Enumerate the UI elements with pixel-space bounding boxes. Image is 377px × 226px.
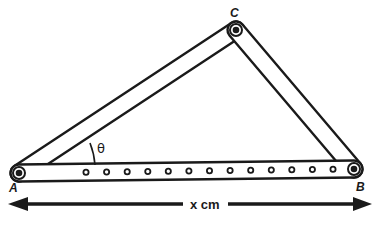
bar-hole xyxy=(310,167,315,172)
pivot-a xyxy=(13,167,25,179)
bar-hole xyxy=(228,168,233,173)
bar-hole xyxy=(186,168,191,173)
arm-cb-body xyxy=(224,18,366,181)
bar-hole xyxy=(166,169,171,174)
pivot-b xyxy=(348,163,360,175)
angle-label: θ xyxy=(97,141,105,156)
bar-hole xyxy=(125,169,130,174)
dimension-label: x cm xyxy=(190,197,220,212)
bar-hole xyxy=(269,167,274,172)
vertex-label-c: C xyxy=(230,6,239,20)
angle-arc xyxy=(90,143,95,165)
bar-hole xyxy=(145,169,150,174)
arrow-head-left-icon xyxy=(8,197,28,211)
bar-hole xyxy=(207,168,212,173)
bar-hole xyxy=(289,167,294,172)
arm-a-to-c xyxy=(7,18,248,185)
bar-hole xyxy=(330,167,335,172)
vertex-label-a: A xyxy=(8,181,18,195)
arrow-head-right-icon xyxy=(353,197,372,211)
bar-hole xyxy=(104,169,109,174)
bar-hole xyxy=(83,170,88,175)
bar-hole xyxy=(248,168,253,173)
frame-diagram: θ A B C x cm xyxy=(0,0,377,226)
arm-c-to-b xyxy=(224,18,366,181)
arm-ac-body xyxy=(7,18,248,185)
pivot-c xyxy=(230,24,242,36)
vertex-label-b: B xyxy=(356,180,365,194)
